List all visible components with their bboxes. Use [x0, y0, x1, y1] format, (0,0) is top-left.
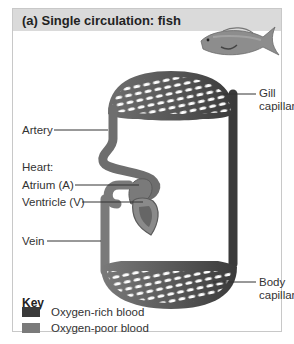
- oxygen-poor-swatch: [22, 323, 40, 333]
- atrium-label: Atrium (A): [22, 179, 74, 192]
- key-item-oxygen-poor: Oxygen-poor blood: [22, 322, 149, 334]
- ventricle-label: Ventricle (V): [22, 196, 85, 209]
- circulation-diagram: [13, 9, 283, 333]
- oxygen-rich-swatch: [22, 307, 40, 317]
- figure-frame: (a) Single circulation: fish: [12, 8, 282, 332]
- gill-capillaries-label-1: Gill: [259, 87, 276, 100]
- body-capillaries-label-1: Body: [259, 276, 285, 289]
- body-capillaries-label-2: capillaries: [259, 289, 294, 302]
- fish-icon: [201, 27, 279, 55]
- heart-label: Heart:: [22, 161, 53, 174]
- key-label-oxygen-rich: Oxygen-rich blood: [51, 306, 144, 318]
- body-capillaries: [101, 261, 237, 309]
- gill-capillaries-label-2: capillaries: [259, 100, 294, 113]
- vein-to-heart: [108, 185, 129, 204]
- artery-label: Artery: [22, 124, 53, 137]
- vein-label: Vein: [22, 235, 44, 248]
- key-item-oxygen-rich: Oxygen-rich blood: [22, 306, 144, 318]
- gill-capillaries: [108, 71, 234, 121]
- key-label-oxygen-poor: Oxygen-poor blood: [51, 322, 149, 334]
